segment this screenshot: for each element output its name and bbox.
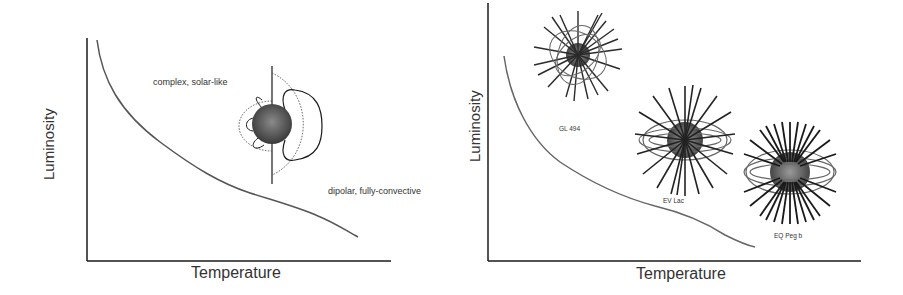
annotation-dipolar: dipolar, fully-convective: [328, 186, 421, 196]
left-panel: Luminosity Temperature complex, solar-li…: [0, 0, 450, 295]
annotation-complex: complex, solar-like: [153, 77, 228, 87]
right-xlabel: Temperature: [636, 265, 726, 283]
star-label-gl494: GL 494: [559, 125, 580, 132]
star-sphere: [252, 104, 292, 144]
main-sequence-curve: [504, 56, 755, 247]
right-diagram: [450, 0, 903, 295]
star-label-evlac: EV Lac: [663, 197, 684, 204]
left-ylabel: Luminosity: [40, 108, 57, 180]
gl494-field-lines: [534, 11, 622, 101]
left-diagram: [0, 0, 450, 295]
eqpegb-field-lines: [744, 122, 836, 224]
left-xlabel: Temperature: [191, 264, 281, 282]
right-ylabel: Luminosity: [466, 90, 483, 162]
right-panel: Luminosity Temperature GL 494 EV Lac EQ …: [450, 0, 903, 295]
star-label-eqpegb: EQ Peg b: [774, 232, 802, 239]
main-sequence-curve: [97, 40, 358, 237]
evlac-field-lines: [635, 85, 735, 196]
